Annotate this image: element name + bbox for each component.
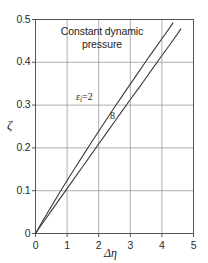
- chart-figure: Constant dynamic pressure ζ Δη 00.10.20.…: [0, 0, 208, 263]
- x-tick-label: 3: [120, 239, 140, 251]
- y-tick-label: 0.4: [17, 55, 31, 67]
- gridlines: [36, 20, 194, 234]
- y-tick-label: 0.3: [17, 98, 31, 110]
- x-tick-label: 0: [26, 239, 46, 251]
- y-tick-label: 0.5: [17, 13, 31, 25]
- curve-label-value-2: 2: [88, 91, 93, 102]
- y-axis-label: ζ: [7, 117, 12, 133]
- curve-label-epsilon-8: 8: [110, 110, 115, 121]
- y-tick-label: 0: [25, 227, 31, 239]
- chart-title: Constant dynamic pressure: [44, 25, 160, 50]
- data-curves: [36, 23, 181, 234]
- x-tick-label: 4: [152, 239, 172, 251]
- x-tick-label: 1: [57, 239, 77, 251]
- figure-page: Constant dynamic pressure ζ Δη 00.10.20.…: [0, 0, 208, 263]
- curve-label-epsilon-2: εi=2: [76, 91, 93, 104]
- curve-1: [36, 29, 181, 234]
- x-tick-label: 5: [184, 239, 204, 251]
- curve-0: [36, 23, 173, 234]
- x-tick-label: 2: [89, 239, 109, 251]
- y-tick-label: 0.1: [17, 184, 31, 196]
- y-tick-label: 0.2: [17, 141, 31, 153]
- plot-frame: [36, 20, 194, 234]
